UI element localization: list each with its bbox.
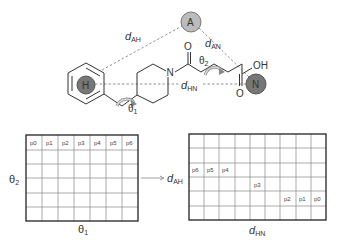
svg-text:N: N	[252, 79, 259, 90]
svg-text:p3: p3	[254, 182, 261, 188]
svg-text:p6: p6	[192, 167, 199, 173]
transform-arrow	[141, 176, 164, 180]
label-theta1: θ1	[128, 103, 138, 115]
left-grid-first-row: p0 p1 p2 p3 p4 p5 p6	[30, 140, 133, 146]
piperidine-ring	[137, 64, 168, 103]
svg-text:p1: p1	[46, 140, 53, 146]
label-d-an: dAN	[205, 37, 221, 50]
atom-n-ring: N	[167, 67, 174, 78]
diagram-canvas: N O OH O A H N dAH dAN	[0, 0, 340, 244]
svg-text:p2: p2	[62, 140, 69, 146]
svg-text:p6: p6	[126, 140, 133, 146]
svg-text:p0: p0	[314, 196, 321, 202]
svg-text:H: H	[82, 80, 89, 91]
right-grid-cells: p6 p5 p4 p3 p2 p1 p0	[192, 167, 321, 202]
svg-text:p4: p4	[222, 167, 229, 173]
left-grid-y-label: θ2	[9, 173, 19, 186]
svg-text:p5: p5	[110, 140, 117, 146]
right-grid: p6 p5 p4 p3 p2 p1 p0 dAH dHN	[167, 134, 326, 237]
atom-oh: OH	[253, 60, 268, 71]
svg-text:p0: p0	[30, 140, 37, 146]
left-grid-x-label: θ1	[78, 223, 88, 236]
label-theta2: θ2	[199, 55, 209, 67]
left-grid: p0 p1 p2 p3 p4 p5 p6 θ2 θ1	[9, 135, 138, 236]
molecule: N O OH O A H N dAH dAN	[68, 12, 268, 115]
svg-text:p4: p4	[94, 140, 101, 146]
atom-o-bottom: O	[236, 88, 244, 99]
svg-text:p1: p1	[299, 196, 306, 202]
svg-text:p5: p5	[207, 167, 214, 173]
right-grid-y-label: dAH	[167, 172, 183, 185]
svg-text:p3: p3	[78, 140, 85, 146]
atom-o-top: O	[184, 41, 192, 52]
right-grid-x-label: dHN	[249, 224, 265, 237]
svg-text:A: A	[187, 17, 194, 28]
label-d-ah: dAH	[125, 30, 141, 43]
svg-text:p2: p2	[284, 196, 291, 202]
rotation-arrow-theta1	[117, 99, 137, 107]
line-d-ah	[102, 26, 182, 70]
